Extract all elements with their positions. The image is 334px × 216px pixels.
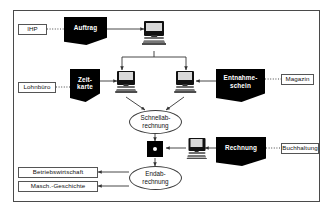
document-rechnung-label: Rechnung <box>225 144 257 159</box>
computer-icon-terminal-left[interactable] <box>117 71 135 93</box>
role-label-lohnbuero[interactable]: Lohnbüro <box>18 82 56 93</box>
process-endabrechnung-line2: rechnung <box>142 178 168 185</box>
role-label-buchhaltung[interactable]: Buchhaltung <box>281 143 319 154</box>
diagram-canvas: IHP Lohnbüro Magazin Buchhaltung Betrieb… <box>0 0 334 216</box>
role-label-ihp[interactable]: IHP <box>18 24 47 35</box>
document-zeitkarte-line2: karte <box>77 83 93 90</box>
computer-icon-terminal-right[interactable] <box>176 71 194 93</box>
screen-icon <box>178 72 192 80</box>
screen-icon <box>190 139 203 147</box>
process-endabrechnung-line1: Endab- <box>145 170 165 177</box>
screen-icon <box>119 72 133 80</box>
role-label-magazin[interactable]: Magazin <box>281 74 314 85</box>
document-entnahmeschein-line1: Entnahme- <box>224 74 258 81</box>
process-schnellabrechnung-line1: Schnellab- <box>141 114 171 121</box>
role-label-betriebswirtschaft[interactable]: Betriebswirtschaft <box>18 167 98 178</box>
document-zeitkarte-line1: Zeit- <box>78 76 92 83</box>
role-label-masch-geschichte[interactable]: Masch.-Geschichte <box>18 181 98 192</box>
screen-icon <box>146 23 161 32</box>
process-schnellabrechnung-line2: rechnung <box>142 122 168 129</box>
node-dot-icon <box>153 147 158 152</box>
merge-node[interactable] <box>147 141 163 157</box>
document-entnahmeschein-line2: schein <box>230 82 251 89</box>
process-endabrechnung[interactable]: Endab- rechnung <box>129 166 182 190</box>
computer-icon-terminal-invoice[interactable] <box>188 138 205 159</box>
computer-icon-terminal-top[interactable] <box>144 21 164 45</box>
monitor-icon <box>144 21 164 36</box>
monitor-icon <box>117 71 135 85</box>
monitor-icon <box>188 138 205 151</box>
document-auftrag-label: Auftrag <box>74 24 97 38</box>
process-schnellabrechnung[interactable]: Schnellab- rechnung <box>129 110 182 134</box>
monitor-icon <box>176 71 194 85</box>
